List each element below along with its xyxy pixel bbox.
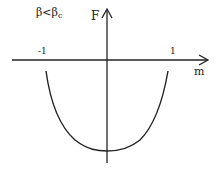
free-energy-diagram: β<βc F m -1 1 (0, 0, 224, 171)
x-tick-pos-one: 1 (170, 47, 176, 56)
y-axis-label: F (91, 10, 99, 22)
x-axis-label: m (194, 66, 204, 77)
plot-canvas (0, 0, 224, 171)
x-tick-neg-one: -1 (38, 47, 47, 56)
condition-label: β<βc (36, 7, 62, 20)
